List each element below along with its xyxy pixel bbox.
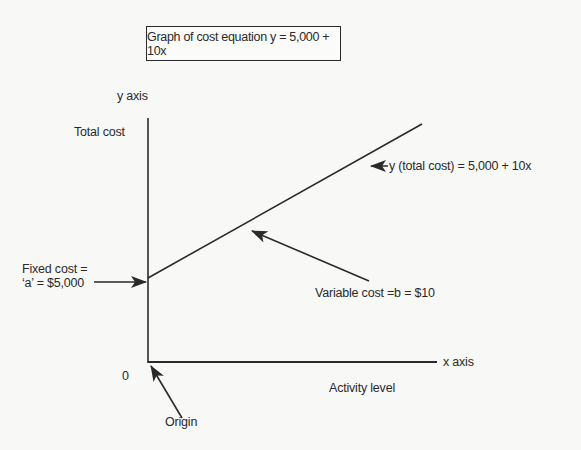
diagram-graphics [0,0,581,450]
diagram-title: Graph of cost equation y = 5,000 + 10x [146,26,341,61]
x-axis-title: Activity level [329,381,395,396]
y-axis-label: y axis [117,89,148,104]
fixed-cost-label-line2: ‘a’ = $5,000 [22,276,84,291]
origin-label: Origin [165,415,197,430]
fixed-cost-label-line1: Fixed cost = [22,262,87,277]
total-cost-line [148,124,422,278]
x-axis-label: x axis [443,355,474,370]
cost-equation-diagram: Graph of cost equation y = 5,000 + 10x y… [0,0,581,450]
origin-arrow [151,366,182,418]
origin-zero-label: 0 [122,369,129,384]
y-axis-title: Total cost [74,125,125,140]
total-cost-equation-label: y (total cost) = 5,000 + 10x [389,159,531,174]
variable-cost-label: Variable cost =b = $10 [315,286,435,301]
variable-cost-arrow [252,231,369,281]
